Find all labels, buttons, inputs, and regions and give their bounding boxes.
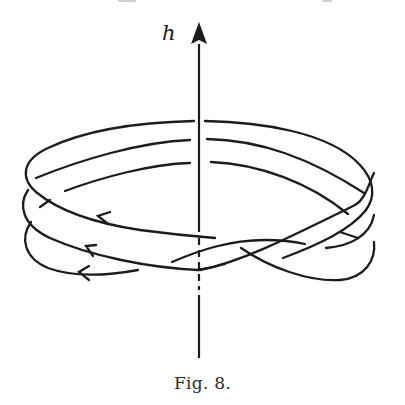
twisted-band-diagram [0,0,405,405]
axis-label-h: h [162,23,176,44]
direction-arrows [79,212,110,280]
figure-caption: Fig. 8. [0,373,405,393]
arrow-up-icon [191,22,207,44]
arrow-left-icon [79,266,89,280]
vertical-axis [191,22,207,358]
